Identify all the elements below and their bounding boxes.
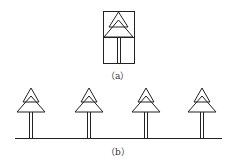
tree-icon <box>17 88 45 138</box>
figure-a <box>104 12 135 64</box>
tree-icon <box>75 88 103 138</box>
diagram <box>0 0 237 167</box>
tree-icon <box>188 88 216 138</box>
label-b: （b） <box>106 145 130 158</box>
figure-b <box>17 88 216 138</box>
label-a: （a） <box>106 69 129 82</box>
tree-icon <box>132 88 160 138</box>
tree-bottom-tier <box>104 20 133 37</box>
